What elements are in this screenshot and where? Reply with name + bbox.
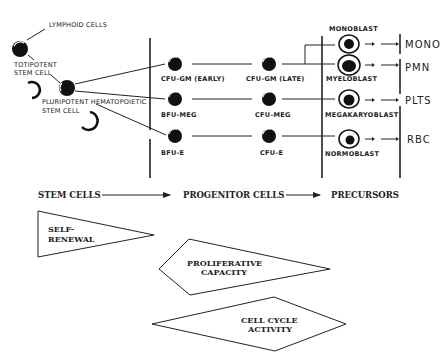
precursor-region: MONOBLAST MYELOBLAST MEGAKARYOBLAST NORM… <box>325 25 399 158</box>
precursors-stage-label: PRECURSORS <box>331 190 399 200</box>
self-renewal-shape: SELF- RENEWAL <box>38 211 154 257</box>
bfu-e-label: BFU-E <box>161 149 184 157</box>
lymphoid-cells-label: LYMPHOID CELLS <box>49 21 107 29</box>
stem-cells-stage-label: STEM CELLS <box>38 190 101 200</box>
pluripotent-to-cfu-gm-line <box>75 64 165 84</box>
bfu-e-cell-icon <box>168 129 182 143</box>
progenitor-region: CFU-GM (EARLY) CFU-GM (LATE) BFU-MEG CFU… <box>161 57 305 157</box>
cfu-meg-label: CFU-MEG <box>255 111 291 119</box>
myeloblast-label: MYELOBLAST <box>326 75 378 83</box>
stem-cell-region: LYMPHOID CELLS TOTIPOTENT STEM CELL PLUR… <box>12 21 166 135</box>
precursor-output-arrows <box>365 42 399 141</box>
cfu-gm-late-label: CFU-GM (LATE) <box>246 75 305 83</box>
pmn-output-label: PMN <box>405 62 430 73</box>
totipotent-label-line1: TOTIPOTENT <box>13 61 57 69</box>
stage-flow-row: STEM CELLS PROGENITOR CELLS PRECURSORS <box>38 190 399 200</box>
cfu-gm-late-to-monoblast-line <box>305 45 335 64</box>
svg-text:CAPACITY: CAPACITY <box>201 267 247 277</box>
self-renewal-arc-icon <box>82 112 98 130</box>
cell-cycle-activity-shape: CELL CYCLE ACTIVITY <box>152 297 346 351</box>
svg-text:SELF-: SELF- <box>48 224 74 234</box>
cfu-gm-early-cell-icon <box>168 57 182 71</box>
normoblast-label: NORMOBLAST <box>325 150 379 158</box>
totipotent-label-line2: STEM CELL <box>14 69 52 77</box>
pluripotent-label-line2: STEM CELL <box>42 107 80 115</box>
hematopoiesis-diagram: LYMPHOID CELLS TOTIPOTENT STEM CELL PLUR… <box>0 0 447 364</box>
progenitor-cells-stage-label: PROGENITOR CELLS <box>183 190 284 200</box>
myeloblast-cell-icon <box>338 55 360 75</box>
bfu-meg-label: BFU-MEG <box>161 111 197 119</box>
pluripotent-label-line1: PLURIPOTENT HEMATOPOIETIC <box>42 98 147 106</box>
mature-cell-outputs: MONO PMN PLTS RBC <box>405 39 441 145</box>
cfu-gm-early-label: CFU-GM (EARLY) <box>161 75 225 83</box>
svg-text:ACTIVITY: ACTIVITY <box>247 324 292 334</box>
cfu-e-label: CFU-E <box>260 149 283 157</box>
totipotent-connector-a <box>28 55 34 60</box>
rbc-output-label: RBC <box>407 134 431 145</box>
pluripotent-to-bfu-e-line <box>96 104 166 135</box>
cfu-gm-late-cell-icon <box>262 57 276 71</box>
plts-output-label: PLTS <box>405 95 432 106</box>
bfu-meg-cell-icon <box>168 92 182 106</box>
proliferative-capacity-shape: PROLIFERATIVE CAPACITY <box>159 239 330 295</box>
svg-text:RENEWAL: RENEWAL <box>48 234 95 244</box>
totipotent-stem-cell-icon <box>12 41 28 57</box>
cfu-meg-cell-icon <box>262 92 276 106</box>
megakaryoblast-label: MEGAKARYOBLAST <box>325 111 399 119</box>
normoblast-cell-icon <box>339 130 359 148</box>
monoblast-label: MONOBLAST <box>329 25 378 33</box>
mono-output-label: MONO <box>405 39 441 50</box>
cfu-e-cell-icon <box>262 129 276 143</box>
monoblast-cell-icon <box>339 35 359 53</box>
megakaryoblast-cell-icon <box>339 90 359 108</box>
totipotent-connector-b <box>51 75 60 83</box>
lymphoid-connector <box>27 29 45 40</box>
self-renewal-arc-icon <box>28 82 40 98</box>
pluripotent-stem-cell-icon <box>59 80 75 96</box>
